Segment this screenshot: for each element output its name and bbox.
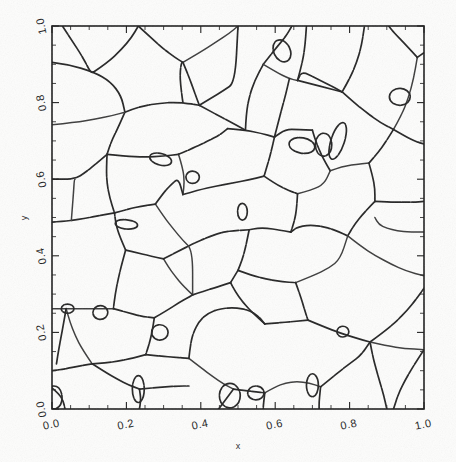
grain-boundary-segment xyxy=(375,201,424,202)
y-axis-title: y xyxy=(19,215,29,220)
figure-canvas: 0.00.20.40.60.81.0 0.00.20.40.60.81.0 x … xyxy=(0,0,456,462)
x-axis-title: x xyxy=(236,441,241,451)
grain-boundary-plot: 0.00.20.40.60.81.0 0.00.20.40.60.81.0 x … xyxy=(0,0,456,462)
